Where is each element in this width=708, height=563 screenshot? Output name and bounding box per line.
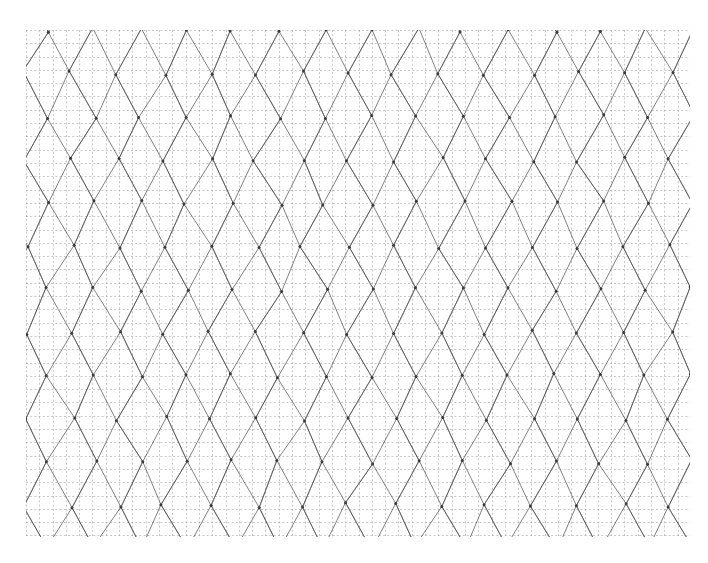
figure-root <box>0 0 708 563</box>
triangular-mesh-plot <box>0 0 708 563</box>
